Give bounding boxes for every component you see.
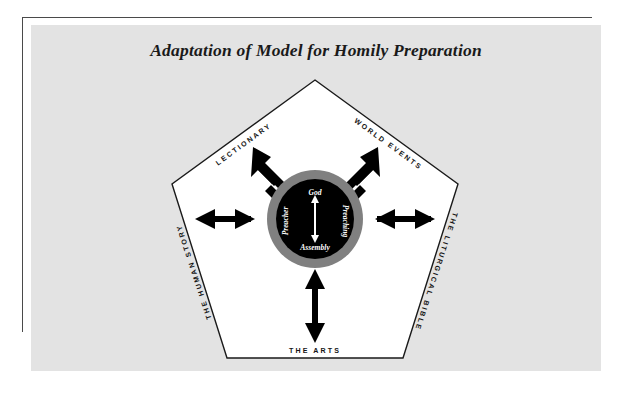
center-label-assembly: Assembly bbox=[299, 243, 330, 252]
center-label-preacher: Preacher bbox=[281, 206, 290, 236]
figure-page: Adaptation of Model for Homily Preparati… bbox=[0, 0, 624, 395]
frame-left-rule bbox=[22, 17, 23, 332]
center-label-preaching: Preaching bbox=[341, 205, 350, 238]
frame-top-rule bbox=[22, 17, 592, 18]
node-label-the-arts: THE ARTS bbox=[289, 347, 341, 355]
center-label-god: God bbox=[308, 188, 321, 197]
pentagon-radial-diagram: God Assembly Preacher Preaching LECTIONA… bbox=[31, 25, 601, 371]
